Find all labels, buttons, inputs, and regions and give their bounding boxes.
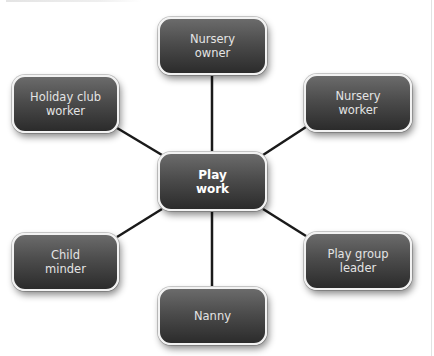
connector-play-group-leader [263,209,306,236]
node-label: Play group leader [327,247,388,275]
center-label: Play work [196,168,229,196]
node-play-group-leader: Play group leader [304,232,412,290]
node-nanny: Nanny [158,287,267,345]
node-nursery-worker: Nursery worker [304,74,412,132]
node-label: Holiday club worker [30,90,101,118]
node-child-minder: Child minder [12,233,119,291]
node-holiday-club-worker: Holiday club worker [12,75,119,133]
connector-holiday-club-worker [117,128,162,155]
node-label: Nursery worker [335,89,380,117]
node-play-work-center: Play work [158,152,267,211]
node-label: Nursery owner [190,32,235,60]
connector-child-minder [117,209,162,237]
node-label: Child minder [45,248,86,276]
connector-nursery-worker [263,127,306,155]
node-label: Nanny [194,309,231,323]
node-nursery-owner: Nursery owner [158,17,267,75]
